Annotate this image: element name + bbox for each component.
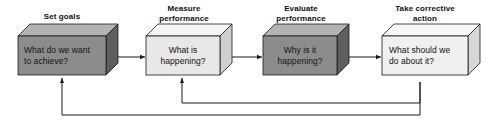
box-question-set-goals: What do we want to achieve?: [24, 45, 106, 66]
box-top-face: [263, 24, 349, 36]
box-question-evaluate-performance: Why is it happening?: [263, 45, 337, 66]
step-title-evaluate-performance: Evaluate performance: [259, 4, 343, 23]
box-question-measure-performance: What is happening?: [146, 45, 220, 66]
step-title-set-goals: Set goals: [18, 12, 106, 22]
box-top-face: [146, 24, 232, 36]
feedback-loop-inner: [182, 78, 420, 103]
step-title-measure-performance: Measure performance: [142, 4, 226, 23]
feedback-loop-outer: [62, 78, 420, 115]
box-question-take-corrective-action: What should we do about it?: [389, 45, 469, 66]
step-title-take-corrective-action: Take corrective action: [376, 4, 474, 23]
box-top-face: [382, 24, 480, 36]
process-flow-diagram: Set goals Measure performance Evaluate p…: [0, 0, 494, 123]
box-top-face: [18, 24, 118, 36]
